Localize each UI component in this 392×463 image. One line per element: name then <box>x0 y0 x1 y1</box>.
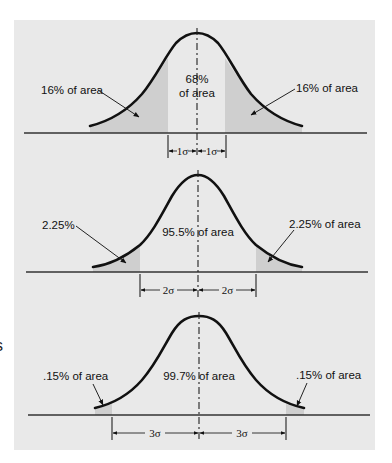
right-dim-label: 3σ <box>236 427 248 439</box>
right-dim-label: 1σ <box>206 145 218 157</box>
left-tail-label: 2.25% <box>42 219 75 231</box>
left-tail-label: .15% of area <box>43 370 109 382</box>
normal-distribution-figure: s 68% of area 16% of area 16% of area 1σ… <box>0 0 392 463</box>
center-area-label-line2: of area <box>179 87 215 99</box>
left-tail-label: 16% of area <box>41 84 104 96</box>
right-tail-label: 2.25% of area <box>289 218 361 230</box>
right-tail-label: 16% of area <box>296 82 359 94</box>
margin-fragment-text: s <box>0 337 3 354</box>
right-tail-label: .15% of area <box>296 369 362 381</box>
center-area-label: 68% <box>185 73 208 85</box>
right-dim-label: 2σ <box>222 284 234 296</box>
left-dim-label: 2σ <box>163 284 175 296</box>
center-area-label: 99.7% of area <box>163 370 235 382</box>
left-dim-label: 3σ <box>149 427 161 439</box>
left-dim-label: 1σ <box>177 145 189 157</box>
center-area-label: 95.5% of area <box>162 226 234 238</box>
